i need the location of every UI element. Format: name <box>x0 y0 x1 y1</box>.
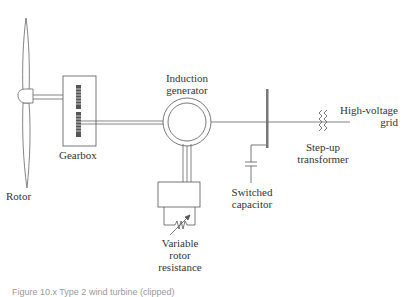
switched-capacitor-icon <box>245 145 266 183</box>
gearbox-label: Gearbox <box>59 149 97 161</box>
switched-capacitor-label: Switched capacitor <box>226 186 278 210</box>
variable-resistance-icon <box>158 182 200 235</box>
grid-label-line1: High-voltage <box>324 104 398 116</box>
figure-caption: Figure 10.x Type 2 wind turbine (clipped… <box>12 287 174 297</box>
step-up-transformer-label-line2: transformer <box>290 153 356 165</box>
switched-capacitor-label-line2: capacitor <box>226 198 278 210</box>
grid-label-line2: grid <box>324 116 398 128</box>
variable-resistance-label-line1: Variable <box>146 237 214 249</box>
step-up-transformer-label: Step-up transformer <box>290 141 356 165</box>
bus-bar <box>266 89 269 148</box>
variable-resistance-label: Variable rotor resistance <box>146 237 214 273</box>
rotor-label: Rotor <box>6 190 31 202</box>
variable-resistance-label-line2: rotor <box>146 249 214 261</box>
variable-resistance-label-line3: resistance <box>146 261 214 273</box>
induction-generator-label-line1: Induction <box>150 72 224 84</box>
step-up-transformer-label-line1: Step-up <box>290 141 356 153</box>
induction-generator-label: Induction generator <box>150 72 224 96</box>
gearbox-icon <box>63 76 96 146</box>
induction-generator-icon <box>163 98 211 146</box>
grid-label: High-voltage grid <box>324 104 398 128</box>
induction-generator-label-line2: generator <box>150 84 224 96</box>
rotor-icon <box>18 18 33 188</box>
rotor-circuit-leads <box>183 144 191 182</box>
switched-capacitor-label-line1: Switched <box>226 186 278 198</box>
